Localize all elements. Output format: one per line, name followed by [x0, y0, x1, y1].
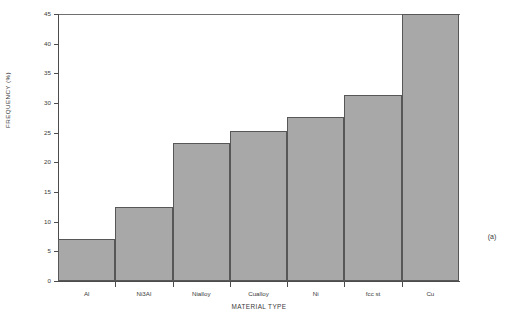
y-axis-tick-label: 5 — [48, 247, 51, 254]
y-axis-tick: 45 — [54, 14, 59, 15]
y-axis-tick-label: 30 — [44, 99, 51, 106]
x-axis-category-label: Al — [84, 290, 90, 297]
bar — [115, 207, 172, 281]
y-axis-tick: 0 — [54, 281, 59, 282]
y-axis-tick-label: 45 — [44, 10, 51, 17]
bar — [402, 14, 459, 281]
x-axis-category-label: Nialloy — [192, 290, 211, 297]
y-axis-title: FREQUENCY (%) — [4, 28, 11, 128]
x-axis-category-label: Cu — [426, 290, 434, 297]
y-axis-tick-label: 10 — [44, 218, 51, 225]
y-axis-tick-label: 25 — [44, 129, 51, 136]
bar — [344, 95, 401, 281]
y-axis-tick: 30 — [54, 103, 59, 104]
y-axis-tick: 10 — [54, 222, 59, 223]
y-axis-tick-label: 40 — [44, 40, 51, 47]
y-axis-tick: 35 — [54, 73, 59, 74]
figure-panel: FREQUENCY (%) 051015202530354045 AlNi3Al… — [0, 0, 517, 327]
x-axis-title: MATERIAL TYPE — [232, 303, 287, 310]
x-axis-tick — [402, 282, 403, 287]
x-axis-tick — [344, 282, 345, 287]
y-axis-tick: 25 — [54, 133, 59, 134]
y-axis-tick-label: 35 — [44, 69, 51, 76]
x-axis-tick — [230, 282, 231, 287]
y-axis-tick: 15 — [54, 192, 59, 193]
y-axis-tick-label: 15 — [44, 188, 51, 195]
x-axis-tick — [287, 282, 288, 287]
bar — [230, 131, 287, 281]
x-axis-line — [58, 281, 460, 282]
panel-tag-label: (a) — [488, 233, 497, 240]
x-axis-tick — [115, 282, 116, 287]
plot-area: 051015202530354045 AlNi3AlNialloyCualloy… — [58, 14, 459, 281]
x-axis-category-label: Ni3Al — [137, 290, 152, 297]
x-axis-category-label: Cualloy — [248, 290, 269, 297]
plot-top-border — [58, 14, 460, 15]
x-axis-tick — [173, 282, 174, 287]
y-axis-tick: 20 — [54, 162, 59, 163]
y-axis-tick-label: 0 — [48, 277, 51, 284]
y-axis-tick: 40 — [54, 44, 59, 45]
bar — [173, 143, 230, 281]
y-axis-tick-label: 20 — [44, 158, 51, 165]
x-axis-category-label: Ni — [313, 290, 319, 297]
bar — [58, 239, 115, 281]
bar — [287, 117, 344, 281]
x-axis-category-label: fcc st — [366, 290, 380, 297]
